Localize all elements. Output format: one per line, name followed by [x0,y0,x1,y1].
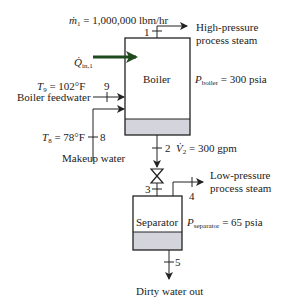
boiler-pressure: Pboiler = 300 psia [195,73,267,85]
stream-1-mass-flow: ṁ1 = 1,000,000 lbm/hr [69,14,168,26]
heat-input-label: Q̇in,1 [74,56,93,68]
stream-8-temperature: T8 = 78°F [42,131,85,143]
stream-9-number: 9 [104,80,110,92]
stream-9-label: Boiler feedwater [17,91,91,103]
stream-3-number: 3 [145,183,151,195]
stream-2-volume-flow: V̇2 = 300 gpm [176,142,237,154]
stream-3-line [152,183,162,196]
stream-4-label-line1: Low-pressure [210,169,270,181]
stream-1-label-line1: High-pressure [196,21,258,33]
stream-8-number: 8 [100,131,106,143]
stream-5-label: Dirty water out [136,285,203,297]
stream-1-line [152,26,187,38]
stream-4-line [173,177,203,196]
process-diagram [0,0,285,307]
stream-1-number: 1 [144,26,150,38]
boiler-label: Boiler [143,73,171,85]
stream-2-number: 2 [165,142,171,154]
separator-pressure: Pseparator = 65 psia [187,216,263,228]
stream-8-label: Makeup water [62,152,125,164]
stream-1-label-line2: process steam [196,34,257,46]
separator-label: Separator [136,216,178,228]
stream-2-line [152,135,162,167]
throttle-valve [151,169,163,183]
boiler-vessel [125,38,190,135]
stream-5-line [164,250,174,279]
stream-5-number: 5 [175,256,181,268]
stream-9-line [93,92,124,102]
stream-4-number: 4 [189,190,195,202]
stream-4-label-line2: process steam [210,182,271,194]
